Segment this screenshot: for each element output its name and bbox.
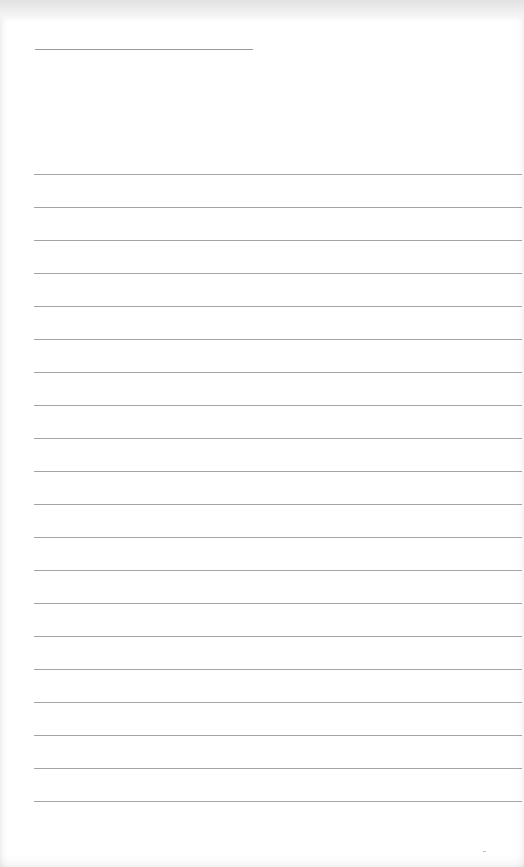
ruled-line <box>34 438 522 439</box>
ruled-line <box>34 207 522 208</box>
ruled-line <box>34 570 522 571</box>
ruled-line <box>34 669 522 670</box>
ruled-line <box>34 801 522 802</box>
ruled-line <box>34 702 522 703</box>
ruled-line <box>34 768 522 769</box>
ruled-line <box>34 603 522 604</box>
ruled-line <box>34 504 522 505</box>
title-line <box>35 49 253 50</box>
paper-speck <box>483 851 486 852</box>
lined-paper-page <box>0 0 524 867</box>
ruled-line <box>34 306 522 307</box>
paper-top-edge <box>0 0 524 22</box>
ruled-line <box>34 537 522 538</box>
ruled-line <box>34 636 522 637</box>
ruled-line <box>34 405 522 406</box>
ruled-line <box>34 735 522 736</box>
ruled-line <box>34 339 522 340</box>
ruled-line <box>34 372 522 373</box>
ruled-line <box>34 240 522 241</box>
ruled-line <box>34 273 522 274</box>
ruled-line <box>34 471 522 472</box>
ruled-line <box>34 174 522 175</box>
